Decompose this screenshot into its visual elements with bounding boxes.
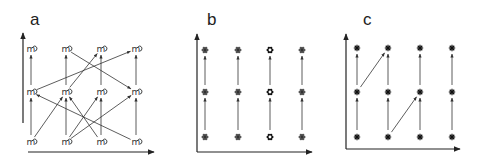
diagram-svg: mmmmmmmmmmmm <box>0 0 478 160</box>
svg-text:m: m <box>62 87 71 97</box>
asterisk-node-icon <box>385 134 391 140</box>
flower-node-icon <box>267 134 274 140</box>
flower-node-icon <box>299 134 306 140</box>
mushroom-node-icon: m <box>27 44 37 54</box>
diagonal-edge <box>34 97 62 137</box>
asterisk-node-icon <box>354 134 360 140</box>
asterisk-node-icon <box>354 89 360 95</box>
flower-node-icon <box>202 47 209 53</box>
asterisk-node-icon <box>417 89 423 95</box>
panel-label-a: a <box>30 11 39 28</box>
figure-canvas: mmmmmmmmmmmm abc <box>0 0 478 160</box>
flower-node-icon <box>267 47 274 53</box>
svg-text:m: m <box>27 137 36 147</box>
mushroom-node-icon: m <box>132 137 142 147</box>
svg-text:m: m <box>97 87 106 97</box>
svg-text:m: m <box>62 44 71 54</box>
flower-node-icon <box>202 134 209 140</box>
diagonal-edge <box>70 54 97 88</box>
diagonal-edge <box>391 97 416 132</box>
svg-text:m: m <box>27 44 36 54</box>
mushroom-node-icon: m <box>132 44 142 54</box>
flower-node-icon <box>299 47 306 53</box>
panel-c <box>346 34 460 149</box>
panel-label-c: c <box>363 11 372 28</box>
flower-node-icon <box>235 89 242 95</box>
asterisk-node-icon <box>449 45 455 51</box>
asterisk-node-icon <box>385 89 391 95</box>
diagonal-edge <box>360 53 384 87</box>
asterisk-node-icon <box>354 45 360 51</box>
asterisk-node-icon <box>385 45 391 51</box>
mushroom-node-icon: m <box>132 87 142 97</box>
panel-a: mmmmmmmmmmmm <box>23 33 154 152</box>
svg-text:m: m <box>97 44 106 54</box>
mushroom-node-icon: m <box>62 137 72 147</box>
mushroom-node-icon: m <box>97 87 107 97</box>
asterisk-node-icon <box>417 45 423 51</box>
svg-text:m: m <box>62 137 71 147</box>
svg-text:m: m <box>132 44 141 54</box>
asterisk-node-icon <box>449 134 455 140</box>
mushroom-node-icon: m <box>27 87 37 97</box>
mushroom-node-icon: m <box>62 87 72 97</box>
flower-node-icon <box>202 89 209 95</box>
svg-text:m: m <box>132 137 141 147</box>
flower-node-icon <box>299 89 306 95</box>
flower-node-icon <box>235 134 242 140</box>
svg-text:m: m <box>132 87 141 97</box>
mushroom-node-icon: m <box>27 137 37 147</box>
mushroom-node-icon: m <box>97 137 107 147</box>
flower-node-icon <box>267 89 274 95</box>
svg-text:m: m <box>97 137 106 147</box>
mushroom-node-icon: m <box>97 44 107 54</box>
mushroom-node-icon: m <box>62 44 72 54</box>
panel-b <box>197 34 312 152</box>
flower-node-icon <box>235 47 242 53</box>
asterisk-node-icon <box>417 134 423 140</box>
panel-label-b: b <box>207 11 216 28</box>
svg-text:m: m <box>27 87 36 97</box>
asterisk-node-icon <box>449 89 455 95</box>
